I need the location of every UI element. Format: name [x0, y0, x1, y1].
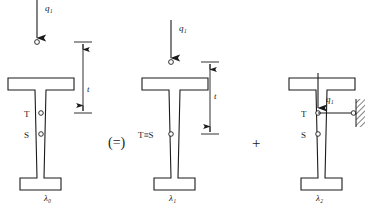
i-beam-section — [289, 78, 355, 190]
figure-caption-lambda0: λ₀ — [43, 193, 51, 203]
dimension-t: t — [201, 62, 219, 134]
load-label-q1: q₁ — [179, 23, 187, 33]
support-wall-hatching — [356, 99, 365, 127]
load-point-node — [35, 40, 40, 45]
figure-lambda-1: q₁ t T≡S λ₁ — [138, 20, 219, 203]
figure-lambda-2: q₁ T S λ₂ — [289, 73, 365, 203]
point-node-T — [39, 111, 44, 116]
dimension-label-t: t — [87, 84, 90, 94]
load-label-q1: q₁ — [45, 3, 53, 13]
structural-diagram: q₁ t T S λ₀ (=) q — [0, 0, 371, 207]
dimension-t: t — [74, 42, 92, 113]
diagram-canvas: q₁ t T S λ₀ (=) q — [0, 0, 371, 207]
point-node-S — [39, 132, 44, 137]
figure-caption-lambda1: λ₁ — [168, 193, 176, 203]
point-node-T-equiv-S — [169, 132, 174, 137]
dimension-label-t: t — [214, 91, 217, 101]
point-label-T-equiv-S: T≡S — [138, 130, 154, 140]
point-node-S — [316, 132, 321, 137]
figure-caption-lambda2: λ₂ — [315, 193, 323, 203]
equivalence-operator: (=) — [108, 135, 126, 151]
figure-lambda-0: q₁ t T S λ₀ — [8, 0, 92, 203]
point-label-T: T — [301, 109, 307, 119]
support-pin-node — [351, 111, 356, 116]
plus-operator: + — [252, 135, 260, 151]
point-label-S: S — [24, 130, 29, 140]
point-label-T: T — [24, 109, 30, 119]
load-point-node — [169, 60, 174, 65]
load-label-q1: q₁ — [326, 94, 334, 104]
point-label-S: S — [301, 130, 306, 140]
